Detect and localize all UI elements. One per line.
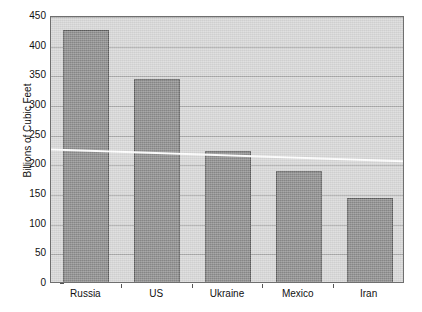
- x-tick-label: US: [149, 288, 163, 299]
- x-tick-label: Ukraine: [210, 288, 244, 299]
- x-tick-label: Iran: [360, 288, 377, 299]
- y-tick-label: 400: [16, 41, 46, 51]
- y-tick-label: 100: [16, 219, 46, 229]
- x-tick-mark: [192, 284, 193, 288]
- y-tick-label: 0: [16, 278, 46, 288]
- y-tick-label: 350: [16, 70, 46, 80]
- y-tick-label: 300: [16, 100, 46, 110]
- bar: [134, 79, 180, 283]
- y-tick-label: 150: [16, 189, 46, 199]
- bar: [63, 30, 109, 283]
- y-tick-label: 200: [16, 159, 46, 169]
- bar: [347, 198, 393, 283]
- bar: [205, 151, 251, 283]
- x-tick-mark: [121, 284, 122, 288]
- x-tick-mark: [262, 284, 263, 288]
- plot-area: [50, 16, 404, 283]
- x-tick-label: Russia: [70, 288, 101, 299]
- bar: [276, 171, 322, 283]
- y-axis-tick-labels: 050100150200250300350400450: [14, 0, 46, 312]
- x-tick-label: Mexico: [282, 288, 314, 299]
- y-tick-label: 450: [16, 11, 46, 21]
- y-tick-mark: [60, 283, 64, 284]
- y-tick-label: 250: [16, 130, 46, 140]
- x-tick-mark: [333, 284, 334, 288]
- gridline: [51, 17, 403, 18]
- bar-chart: Billions of Cubic Feet 05010015020025030…: [0, 0, 422, 312]
- y-tick-label: 50: [16, 248, 46, 258]
